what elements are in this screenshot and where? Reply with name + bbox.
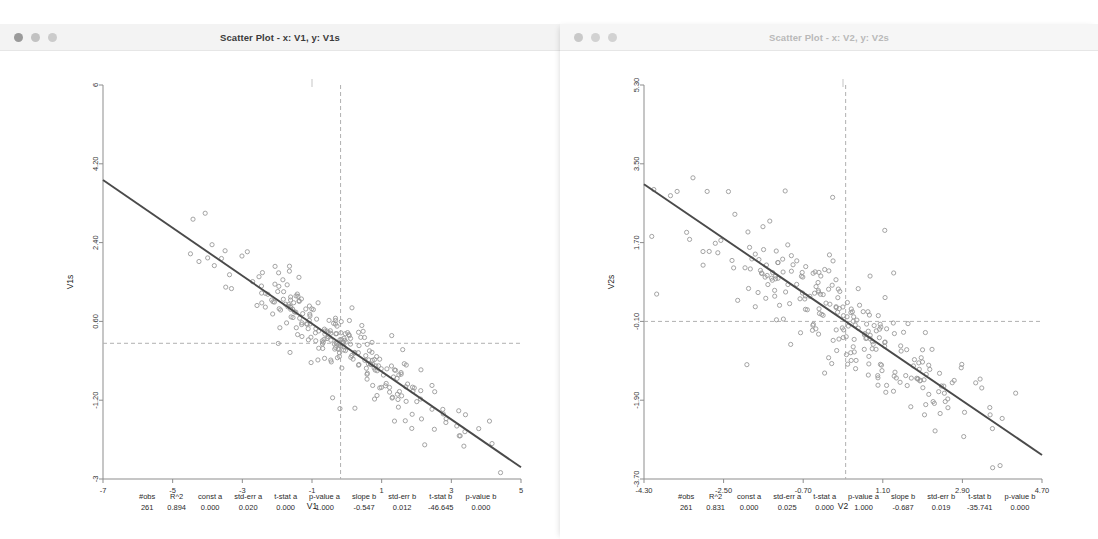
y-axis-tick-label: 5.30 — [632, 78, 641, 93]
close-button-icon[interactable] — [574, 33, 583, 42]
y-axis-label: V2s — [606, 275, 616, 290]
x-axis-tick-label: -7 — [100, 486, 107, 495]
window-controls-left — [14, 33, 57, 42]
y-axis-tick-label: -0.10 — [632, 313, 641, 330]
x-axis-tick-label: 5 — [519, 486, 523, 495]
scatter-plot-window-left[interactable]: Scatter Plot - x: V1, y: V1s -7-5-3-1135… — [0, 24, 560, 539]
stats-cell: 261 — [133, 503, 161, 512]
stats-column-header: slope b — [885, 492, 921, 503]
table-row: 2610.8310.0000.0250.0001.000-0.6870.019-… — [672, 503, 1041, 512]
scatter-points — [650, 176, 1018, 470]
y-axis-tick-label: 3.50 — [632, 156, 641, 171]
stats-column-header: t-stat a — [268, 492, 303, 503]
stats-cell: 261 — [672, 503, 700, 512]
stats-cell: 0.019 — [921, 503, 961, 512]
y-axis-tick-label: 0.60 — [91, 314, 100, 329]
stats-cell: 0.000 — [192, 503, 228, 512]
stats-column-header: #obs — [672, 492, 700, 503]
stats-column-header: std-err a — [767, 492, 807, 503]
plot-canvas-right: -4.30-2.50-0.701.102.904.70-3.70-1.90-0.… — [560, 51, 1098, 539]
y-axis-tick-label: 4.20 — [91, 156, 100, 171]
stats-cell: 0.012 — [382, 503, 422, 512]
y-axis-tick-label: 1.70 — [632, 235, 641, 250]
stats-column-header: p-value a — [303, 492, 346, 503]
maximize-button-icon[interactable] — [48, 33, 57, 42]
maximize-button-icon[interactable] — [608, 33, 617, 42]
stats-column-header: R^2 — [700, 492, 731, 503]
regression-stats-table-right: #obsR^2const astd-err at-stat ap-value a… — [672, 492, 1041, 512]
stats-cell: 0.025 — [767, 503, 807, 512]
stats-column-header: #obs — [133, 492, 161, 503]
stats-cell: -46.645 — [422, 503, 459, 512]
window-titlebar-left[interactable]: Scatter Plot - x: V1, y: V1s — [0, 24, 560, 51]
y-axis-tick-label: 6 — [91, 83, 100, 87]
stats-cell: 0.000 — [268, 503, 303, 512]
stats-column-header: t-stat b — [961, 492, 998, 503]
desktop-background: Scatter Plot - x: V1, y: V1s -7-5-3-1135… — [0, 0, 1098, 539]
stats-column-header: p-value a — [842, 492, 885, 503]
stats-cell: 0.831 — [700, 503, 731, 512]
stats-column-header: const a — [192, 492, 228, 503]
window-title-right: Scatter Plot - x: V2, y: V2s — [560, 32, 1098, 43]
stats-cell: -0.687 — [885, 503, 921, 512]
stats-cell: 0.000 — [999, 503, 1042, 512]
stats-cell: -0.547 — [346, 503, 382, 512]
stats-column-header: R^2 — [161, 492, 192, 503]
stats-column-header: t-stat a — [807, 492, 842, 503]
plot-canvas-left: -7-5-3-1135-3-1.200.602.404.206V1V1s — [0, 51, 560, 539]
window-controls-right — [574, 33, 617, 42]
stats-cell: 1.000 — [842, 503, 885, 512]
y-axis-tick-label: -3 — [91, 476, 100, 483]
stats-column-header: const a — [731, 492, 767, 503]
stats-column-header: std-err b — [921, 492, 961, 503]
table-row: 2610.8940.0000.0200.0001.000-0.5470.012-… — [133, 503, 502, 512]
table-header-row: #obsR^2const astd-err at-stat ap-value a… — [672, 492, 1041, 503]
stats-cell: 0.000 — [807, 503, 842, 512]
minimize-button-icon[interactable] — [591, 33, 600, 42]
regression-stats-table-left: #obsR^2const astd-err at-stat ap-value a… — [133, 492, 502, 512]
minimize-button-icon[interactable] — [31, 33, 40, 42]
close-button-icon[interactable] — [14, 33, 23, 42]
y-axis-tick-label: -3.70 — [632, 470, 641, 487]
stats-cell: 1.000 — [303, 503, 346, 512]
window-titlebar-right[interactable]: Scatter Plot - x: V2, y: V2s — [560, 24, 1098, 51]
regression-line — [644, 184, 1042, 455]
stats-cell: 0.894 — [161, 503, 192, 512]
stats-column-header: p-value b — [460, 492, 503, 503]
window-title-left: Scatter Plot - x: V1, y: V1s — [0, 32, 560, 43]
y-axis-tick-label: -1.90 — [632, 392, 641, 409]
y-axis-label: V1s — [65, 275, 75, 290]
y-axis-tick-label: 2.40 — [91, 235, 100, 250]
stats-cell: 0.020 — [228, 503, 268, 512]
stats-cell: 0.000 — [460, 503, 503, 512]
stats-column-header: t-stat b — [422, 492, 459, 503]
stats-cell: 0.000 — [731, 503, 767, 512]
table-header-row: #obsR^2const astd-err at-stat ap-value a… — [133, 492, 502, 503]
stats-column-header: p-value b — [999, 492, 1042, 503]
y-axis-tick-label: -1.20 — [91, 392, 100, 409]
scatter-chart-left: -7-5-3-1135-3-1.200.602.404.206V1V1s — [0, 51, 560, 539]
scatter-plot-window-right[interactable]: Scatter Plot - x: V2, y: V2s -4.30-2.50-… — [560, 24, 1098, 539]
stats-column-header: slope b — [346, 492, 382, 503]
stats-cell: -35.741 — [961, 503, 998, 512]
stats-column-header: std-err a — [228, 492, 268, 503]
stats-column-header: std-err b — [382, 492, 422, 503]
scatter-chart-right: -4.30-2.50-0.701.102.904.70-3.70-1.90-0.… — [560, 51, 1098, 539]
regression-line — [103, 180, 521, 467]
